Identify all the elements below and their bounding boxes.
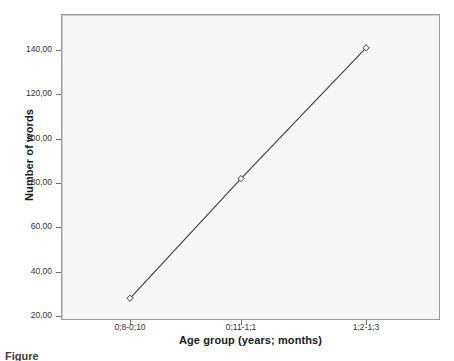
y-tick-label: 20,00 (6, 311, 52, 320)
x-axis-title: Age group (years; months) (61, 334, 440, 346)
y-tick-mark (56, 183, 61, 184)
y-tick-mark (56, 94, 61, 95)
y-tick-mark (56, 316, 61, 317)
y-tick-label: 80,00 (6, 178, 52, 187)
y-tick-label: 120,00 (6, 89, 52, 98)
y-tick-label: 40,00 (6, 267, 52, 276)
caption-sliver: Figure (5, 350, 39, 361)
y-tick-mark (56, 139, 61, 140)
plot-area (61, 14, 440, 320)
y-axis-title: Number of words (23, 80, 35, 230)
x-tick-label: 1;2-1;3 (321, 322, 411, 332)
y-tick-label: 140,00 (6, 45, 52, 54)
figure-root: Number of words Age group (years; months… (0, 0, 454, 361)
y-tick-mark (56, 50, 61, 51)
y-tick-mark (56, 227, 61, 228)
y-tick-label: 60,00 (6, 222, 52, 231)
y-tick-mark (56, 272, 61, 273)
x-tick-label: 0;11-1;1 (196, 322, 286, 332)
x-tick-label: 0;8-0;10 (85, 322, 175, 332)
y-tick-label: 100,00 (6, 134, 52, 143)
